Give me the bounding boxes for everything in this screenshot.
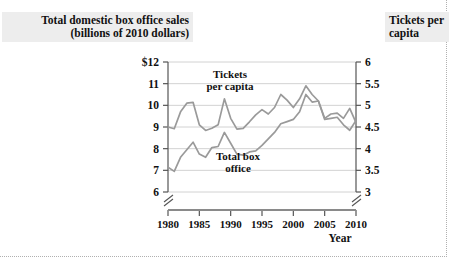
svg-text:5: 5 [365,99,371,111]
svg-text:9: 9 [153,121,159,133]
svg-text:4.5: 4.5 [365,121,380,133]
left-axis-break-icon [164,195,173,206]
svg-text:10: 10 [148,99,160,111]
svg-text:1985: 1985 [188,218,211,230]
tickets-label-line2: per capita [206,80,254,92]
tickets-label-line1: Tickets [213,68,248,80]
svg-text:2005: 2005 [314,218,337,230]
right-axis-break-icon [352,195,361,206]
x-axis-label: Year [329,232,352,244]
svg-text:2010: 2010 [345,218,368,230]
gridlines [168,62,356,192]
boxoffice-label-line1: Total box [216,150,260,162]
svg-text:3: 3 [365,186,371,198]
svg-text:1980: 1980 [157,218,180,230]
svg-text:5.5: 5.5 [365,78,380,90]
total-box-office-line [168,95,356,172]
svg-text:4: 4 [365,143,371,155]
svg-text:1990: 1990 [220,218,243,230]
svg-text:8: 8 [153,143,159,155]
svg-text:1995: 1995 [251,218,274,230]
svg-text:$12: $12 [142,56,160,68]
right-axis-tick-labels: 65.554.543.53 [365,56,380,198]
boxoffice-label-line2: office [225,162,251,174]
svg-text:7: 7 [153,164,159,176]
svg-text:3.5: 3.5 [365,164,380,176]
left-axis-tick-labels: $1211109876 [142,56,160,198]
svg-text:2000: 2000 [282,218,305,230]
tickets-per-capita-line [168,86,356,131]
x-axis-tick-labels: 1980198519901995200020052010 [157,218,368,230]
svg-text:6: 6 [365,56,371,68]
svg-text:11: 11 [148,78,159,90]
svg-text:6: 6 [153,186,159,198]
right-axis-ticks [356,62,361,192]
